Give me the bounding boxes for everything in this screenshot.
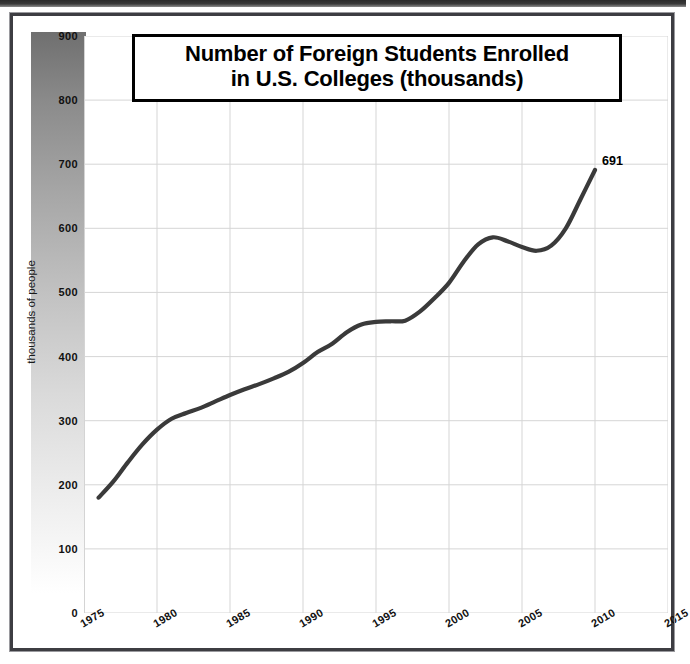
end-point-value-label: 691 <box>602 154 623 168</box>
y-tick-label-700: 700 <box>32 158 78 170</box>
top-decorative-bar <box>0 0 686 7</box>
y-tick-label-800: 800 <box>32 94 78 106</box>
y-tick-label-600: 600 <box>32 222 78 234</box>
chart-title-line-2: in U.S. Colleges (thousands) <box>141 67 613 92</box>
data-line-series <box>84 36 668 613</box>
y-axis-tick-labels: 0100200300400500600700800900 <box>30 36 78 613</box>
y-tick-label-500: 500 <box>32 286 78 298</box>
y-tick-label-900: 900 <box>32 30 78 42</box>
y-tick-label-0: 0 <box>32 607 78 619</box>
y-tick-label-100: 100 <box>32 543 78 555</box>
chart-title-box: Number of Foreign Students Enrolled in U… <box>132 34 622 102</box>
y-tick-label-300: 300 <box>32 415 78 427</box>
plot-area <box>84 36 668 613</box>
y-tick-label-200: 200 <box>32 479 78 491</box>
y-tick-label-400: 400 <box>32 351 78 363</box>
x-axis-tick-labels: 197519801985199019952000200520102015 <box>84 613 668 659</box>
chart-title-line-1: Number of Foreign Students Enrolled <box>141 42 613 67</box>
chart-frame: thousands of people 01002003004005006007… <box>9 12 675 652</box>
